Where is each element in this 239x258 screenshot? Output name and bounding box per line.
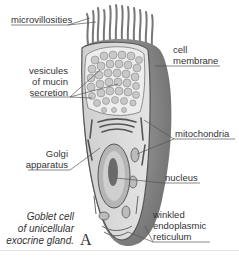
caption-line: of unicellular	[2, 223, 74, 235]
label-line: cell	[173, 44, 218, 55]
label-line: Golgi	[20, 148, 68, 159]
label-line: membrane	[173, 55, 218, 66]
label-line: winkled	[153, 209, 206, 220]
label-line: of mucin	[22, 76, 68, 87]
label-vesicules: vesicules of mucin secretion	[22, 65, 68, 98]
label-endoplasmic-reticulum: winkled endoplasmic reticulum	[153, 209, 206, 242]
label-line: vesicules	[22, 65, 68, 76]
caption-line: Goblet cell	[2, 211, 74, 223]
caption-line: exocrine gland.	[2, 235, 74, 247]
divider	[0, 250, 239, 251]
label-line: apparatus	[20, 159, 68, 170]
label-nucleus: nucleus	[165, 172, 198, 183]
label-line: reticulum	[153, 231, 206, 242]
label-microvillosities: microvillosities	[11, 14, 72, 25]
label-mitochondria: mitochondria	[175, 128, 229, 139]
figure-caption: Goblet cell of unicellular exocrine glan…	[2, 211, 74, 247]
label-golgi: Golgi apparatus	[20, 148, 68, 170]
plate-letter: A	[80, 231, 92, 249]
label-cell-membrane: cell membrane	[173, 44, 218, 66]
label-line: secretion	[22, 87, 68, 98]
label-line: endoplasmic	[153, 220, 206, 231]
